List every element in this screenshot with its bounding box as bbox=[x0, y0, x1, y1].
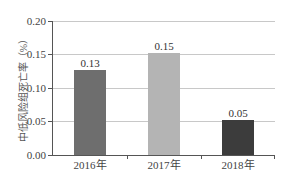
y-tick-0.00: 0.00 bbox=[12, 149, 46, 161]
bar-2018 bbox=[222, 120, 254, 155]
x-tick-2018: 2018年 bbox=[208, 159, 268, 171]
value-label-2016: 0.13 bbox=[70, 57, 110, 69]
value-label-2017: 0.15 bbox=[144, 40, 184, 52]
value-label-2018: 0.05 bbox=[218, 107, 258, 119]
y-tick-0.05: 0.05 bbox=[12, 115, 46, 127]
y-tick-0.10: 0.10 bbox=[12, 82, 46, 94]
x-tick-2017: 2017年 bbox=[134, 159, 194, 171]
x-tick-2016: 2016年 bbox=[60, 159, 120, 171]
y-tick-0.15: 0.15 bbox=[12, 48, 46, 60]
bar-2017 bbox=[148, 53, 180, 155]
y-tick-0.20: 0.20 bbox=[12, 15, 46, 27]
bar-2016 bbox=[74, 70, 106, 155]
